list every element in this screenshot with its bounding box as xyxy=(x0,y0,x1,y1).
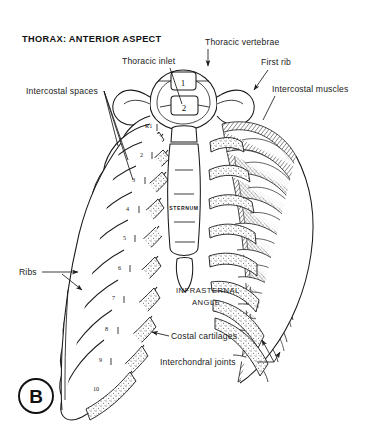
panel-marker-label: B xyxy=(29,386,43,407)
rib-number-9: 9 xyxy=(99,356,102,363)
rib-number-5: 5 xyxy=(123,234,126,241)
label-costal-cartilages: Costal cartilages xyxy=(171,331,237,341)
sternum-label: STERNUM xyxy=(169,205,198,211)
label-ribs: Ribs xyxy=(19,267,37,277)
vertebra-t2-number: 2 xyxy=(182,103,187,113)
rib-number-6: 6 xyxy=(118,264,121,271)
label-infrasternal-angle-line1: INFRASTERNAL xyxy=(176,286,240,295)
rib-number-7: 7 xyxy=(112,294,115,301)
label-first-rib: First rib xyxy=(261,57,291,67)
figure-title: THORAX: ANTERIOR ASPECT xyxy=(22,34,162,44)
rib-number-4: 4 xyxy=(126,205,129,212)
panel-marker-b: B xyxy=(19,379,53,413)
label-thoracic-inlet: Thoracic inlet xyxy=(122,56,176,66)
label-intercostal-spaces: Intercostal spaces xyxy=(26,86,98,96)
thorax-anterior-diagram: THORAX: ANTERIOR ASPECT 1 2 xyxy=(0,0,367,447)
vertebra-t1-number: 1 xyxy=(181,78,186,88)
rib-number-2: 2 xyxy=(140,151,143,158)
label-thoracic-vertebrae: Thoracic vertebrae xyxy=(205,37,279,47)
label-infrasternal-angle-line2: ANGLE xyxy=(192,298,220,307)
rib-number-1: R1 xyxy=(145,122,152,129)
label-interchondral-joints: Interchondral joints xyxy=(160,357,236,367)
label-intercostal-muscles: Intercostal muscles xyxy=(272,84,348,94)
rib-number-8: 8 xyxy=(105,325,108,332)
rib-number-10: 10 xyxy=(93,385,99,392)
